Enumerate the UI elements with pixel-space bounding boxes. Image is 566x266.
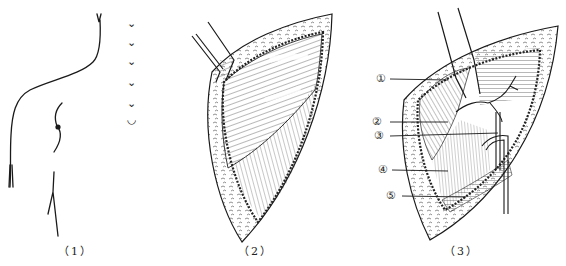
incision-point-marker — [55, 124, 60, 129]
panel-3: ① ② ③ ④ ⑤ （3） — [370, 0, 566, 266]
surgical-field-illustration — [180, 0, 380, 266]
incision-mark: ⌄ — [127, 37, 136, 48]
label-4-marker: ④ — [378, 164, 388, 175]
labeled-surgical-field-illustration — [370, 0, 566, 266]
label-1-marker: ① — [376, 73, 386, 84]
label-5-marker: ⑤ — [386, 190, 396, 201]
panel-caption: （1） — [58, 242, 93, 258]
incision-mark: ⌄ — [127, 18, 136, 29]
panel-1: ⌄ ⌄ ⌄ ⌄ ⌄ ◡ （1） — [0, 0, 180, 266]
incision-mark: ⌄ — [127, 77, 136, 88]
incision-mark: ◡ — [127, 114, 137, 125]
label-3-marker: ③ — [374, 130, 384, 141]
panel-caption: （3） — [444, 242, 479, 258]
incision-mark: ⌄ — [127, 98, 136, 109]
label-2-marker: ② — [372, 116, 382, 127]
incision-mark: ⌄ — [127, 56, 136, 67]
panel-2: （2） — [180, 0, 380, 266]
panel-caption: （2） — [238, 242, 273, 258]
torso-outline-illustration — [0, 0, 180, 266]
